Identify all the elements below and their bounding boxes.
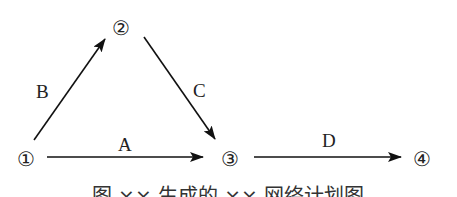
- node-3: ③: [221, 147, 239, 171]
- figure-caption: 图 ×× 生成的 ×× 网络计划图: [92, 184, 364, 197]
- node-1: ①: [17, 147, 35, 171]
- edge-label-b: B: [36, 81, 49, 102]
- edge-label-a: A: [118, 134, 132, 155]
- node-4: ④: [413, 147, 431, 171]
- edge-label-c: C: [193, 80, 206, 101]
- node-2: ②: [112, 16, 130, 40]
- network-diagram: B C A D ① ② ③ ④ 图 ×× 生成的 ×× 网络计划图: [0, 0, 457, 197]
- edge-label-d: D: [322, 130, 336, 151]
